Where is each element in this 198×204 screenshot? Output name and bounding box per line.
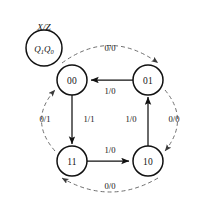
edge-label-s01-s00: 1/0 bbox=[105, 86, 116, 96]
state-node-10[interactable]: 10 bbox=[133, 146, 163, 176]
state-label-10: 10 bbox=[143, 157, 153, 167]
edge-label-s00-s01: 0/0 bbox=[105, 43, 116, 53]
state-label-11: 11 bbox=[67, 157, 77, 167]
state-node-01[interactable]: 01 bbox=[133, 65, 163, 95]
edge-label-s01-s10: 0/0 bbox=[169, 114, 180, 124]
state-label-01: 01 bbox=[143, 76, 153, 86]
edge-label-s11-s00: 1/1 bbox=[84, 114, 95, 124]
state-node-00[interactable]: 00 bbox=[57, 65, 87, 95]
edge-label-s00-s11: 0/1 bbox=[40, 114, 51, 124]
legend: X/Z Q1Q0 bbox=[26, 22, 62, 66]
state-node-11[interactable]: 11 bbox=[57, 146, 87, 176]
state-diagram: X/Z Q1Q0 00 01 bbox=[0, 0, 198, 204]
edge-label-s11-s10: 1/0 bbox=[105, 145, 116, 155]
edge-label-s10-s11: 0/0 bbox=[105, 181, 116, 191]
state-diagram-canvas: X/Z Q1Q0 00 01 bbox=[0, 0, 198, 204]
state-nodes: 00 01 11 10 bbox=[57, 65, 163, 176]
state-label-00: 00 bbox=[67, 76, 77, 86]
edge-label-s10-s01: 1/0 bbox=[126, 114, 137, 124]
